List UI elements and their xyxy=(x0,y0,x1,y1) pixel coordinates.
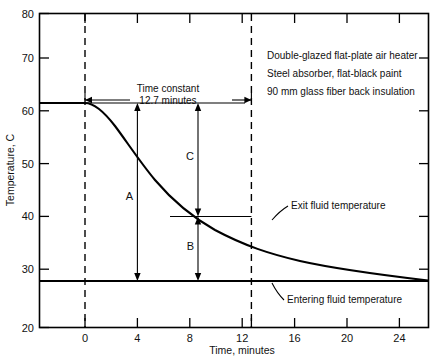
x-tick-label-24: 24 xyxy=(393,332,405,344)
description-text-block: Double-glazed flat-plate air heater Stee… xyxy=(267,50,418,97)
description-line-3: 90 mm glass fiber back insulation xyxy=(267,86,415,97)
time-constant-label-line2: 12.7 minutes xyxy=(139,95,196,106)
x-tick-label-0: 0 xyxy=(82,332,88,344)
x-axis-title: Time, minutes xyxy=(209,344,275,356)
segment-a-label: A xyxy=(126,190,134,202)
entering-fluid-callout-text: Entering fluid temperature xyxy=(287,294,403,305)
description-line-2: Steel absorber, flat-black paint xyxy=(267,68,402,79)
segment-c-label: C xyxy=(186,150,194,162)
time-constant-label-line1: Time constant xyxy=(137,83,200,94)
y-tick-label-60: 60 xyxy=(22,105,34,117)
description-line-1: Double-glazed flat-plate air heater xyxy=(267,50,418,61)
x-tick-label-20: 20 xyxy=(341,332,353,344)
segment-b-label: B xyxy=(187,240,194,252)
x-tick-label-8: 8 xyxy=(187,332,193,344)
y-tick-label-80: 80 xyxy=(22,8,34,20)
y-tick-label-40: 40 xyxy=(22,210,34,222)
y-tick-label-70: 70 xyxy=(22,52,34,64)
x-tick-label-16: 16 xyxy=(288,332,300,344)
y-tick-label-50: 50 xyxy=(22,158,34,170)
x-tick-label-4: 4 xyxy=(134,332,140,344)
exit-fluid-callout-text: Exit fluid temperature xyxy=(291,200,386,211)
chart-figure: 80 70 60 50 40 30 20 Temperature, C xyxy=(0,0,444,356)
y-tick-label-30: 30 xyxy=(22,263,34,275)
y-tick-label-20: 20 xyxy=(22,322,34,334)
x-tick-label-12: 12 xyxy=(236,332,248,344)
y-axis-title: Temperature, C xyxy=(4,133,16,206)
temperature-vs-time-chart: 80 70 60 50 40 30 20 Temperature, C xyxy=(0,0,444,356)
